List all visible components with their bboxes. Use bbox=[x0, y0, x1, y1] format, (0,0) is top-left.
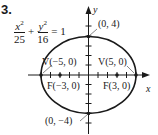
vertex-right-point bbox=[134, 73, 138, 77]
vertex-left-label: V(−5, 0) bbox=[42, 56, 77, 68]
vertex-right-label: V(5, 0) bbox=[98, 56, 127, 68]
bottom-leader-line bbox=[80, 114, 88, 121]
vertex-left-point bbox=[39, 73, 43, 77]
focus-left-point bbox=[58, 73, 62, 77]
y-axis-arrow-icon bbox=[86, 6, 92, 14]
ellipse-graph: y x (0, 4) (0, −4) V(−5, 0) V(5, 0) F(−3… bbox=[0, 0, 158, 135]
top-point-label: (0, 4) bbox=[98, 18, 120, 30]
top-leader-line bbox=[89, 29, 97, 36]
x-axis-label: x bbox=[145, 83, 151, 94]
focus-right-point bbox=[115, 73, 119, 77]
x-axis-arrow-icon bbox=[142, 72, 150, 78]
focus-right-label: F(3, 0) bbox=[103, 80, 130, 92]
vertex-right-leader-line bbox=[127, 66, 134, 73]
bottom-point-label: (0, −4) bbox=[45, 115, 72, 127]
focus-left-label: F(−3, 0) bbox=[47, 80, 80, 92]
y-axis-label: y bbox=[92, 4, 98, 15]
